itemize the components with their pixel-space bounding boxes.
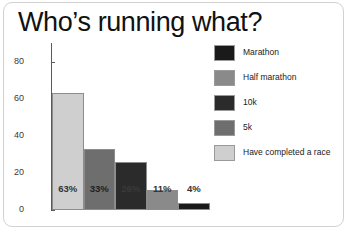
y-axis-tick: 60 (28, 99, 55, 100)
y-axis-tick-mark (51, 210, 55, 211)
bar-value-label: 33% (84, 183, 116, 194)
page-title: Who’s running what? (18, 7, 262, 37)
chart-legend: MarathonHalf marathon10k5kHave completed… (214, 43, 342, 168)
bar-value-label: 26% (115, 183, 147, 194)
legend-label: Have completed a race (243, 147, 330, 157)
legend-label: 10k (243, 97, 257, 107)
bar (178, 203, 210, 210)
y-axis-tick: 40 (28, 136, 55, 137)
legend-item: 5k (214, 118, 342, 143)
y-axis-tick: 20 (28, 173, 55, 174)
legend-label: 5k (243, 122, 252, 132)
bar-series: 63%33%26%11%4% (52, 43, 210, 210)
y-axis-tick-label: 40 (14, 130, 24, 140)
legend-item: Have completed a race (214, 143, 342, 168)
bar-value-label: 11% (147, 183, 179, 194)
bar-value-label: 4% (178, 183, 210, 194)
legend-item: Marathon (214, 43, 342, 68)
chart-card: Who’s running what? 020406080 63%33%26%1… (3, 2, 344, 227)
bar-value-label: 63% (52, 183, 84, 194)
legend-swatch (214, 120, 235, 136)
y-axis-tick-label: 20 (14, 167, 24, 177)
legend-label: Marathon (243, 47, 279, 57)
y-axis-tick-label: 60 (14, 93, 24, 103)
y-axis-tick-label: 0 (19, 204, 24, 214)
y-axis-tick-label: 80 (14, 56, 24, 66)
legend-item: Half marathon (214, 68, 342, 93)
legend-swatch (214, 145, 235, 161)
legend-swatch (214, 70, 235, 86)
y-axis-tick: 80 (28, 62, 55, 63)
legend-swatch (214, 45, 235, 61)
plot-area: 020406080 63%33%26%11%4% (28, 43, 210, 215)
legend-swatch (214, 95, 235, 111)
y-axis-tick: 0 (28, 210, 55, 211)
legend-label: Half marathon (243, 72, 296, 82)
legend-item: 10k (214, 93, 342, 118)
bar (84, 149, 116, 210)
